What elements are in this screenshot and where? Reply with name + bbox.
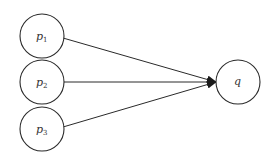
diagram-canvas: p1 p2 p3 q bbox=[0, 0, 276, 162]
node-p1: p1 bbox=[20, 14, 64, 58]
edge-p3-to-q bbox=[63, 82, 216, 127]
node-p2: p2 bbox=[20, 60, 64, 104]
edge-p1-to-q bbox=[63, 38, 216, 82]
node-label: q bbox=[234, 75, 241, 88]
edges bbox=[63, 38, 216, 127]
node-p3: p3 bbox=[20, 107, 64, 151]
node-q: q bbox=[216, 60, 260, 104]
